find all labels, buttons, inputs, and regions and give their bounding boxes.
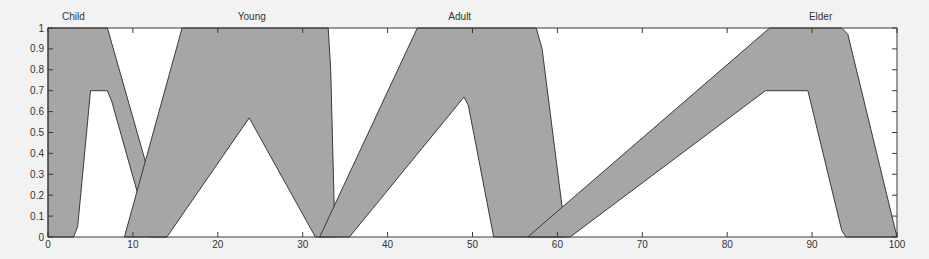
x-tick-label: 80 [722,239,734,250]
x-axis-labels: 0102030405060708090100 [45,239,906,250]
y-tick-label: 0.2 [30,190,44,201]
x-tick-label: 30 [297,239,309,250]
set-title-adult: Adult [448,11,471,22]
set-titles: ChildYoungAdultElder [62,11,833,22]
y-tick-label: 0.8 [30,64,44,75]
x-tick-label: 60 [552,239,564,250]
x-tick-label: 50 [467,239,479,250]
x-tick-label: 90 [807,239,819,250]
y-tick-label: 0.7 [30,85,44,96]
set-title-young: Young [238,11,266,22]
x-tick-label: 40 [382,239,394,250]
fuzzy-membership-chart: 0102030405060708090100 00.10.20.30.40.50… [0,0,929,259]
y-tick-label: 0.3 [30,169,44,180]
x-tick-label: 0 [45,239,51,250]
y-axis-labels: 00.10.20.30.40.50.60.70.80.91 [30,23,44,243]
set-title-child: Child [62,11,85,22]
y-tick-label: 0.9 [30,43,44,54]
y-tick-label: 0.4 [30,148,44,159]
y-tick-label: 0.1 [30,211,44,222]
y-tick-label: 0.6 [30,106,44,117]
x-tick-label: 100 [889,239,906,250]
x-tick-label: 10 [127,239,139,250]
set-title-elder: Elder [809,11,833,22]
x-tick-label: 70 [637,239,649,250]
y-tick-label: 0.5 [30,127,44,138]
y-tick-label: 0 [38,232,44,243]
y-tick-label: 1 [38,23,44,34]
x-tick-label: 20 [212,239,224,250]
